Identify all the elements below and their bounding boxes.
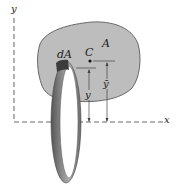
x-axis-label: x (164, 115, 170, 125)
centroid-point (88, 59, 91, 62)
centroid-diagram: y x A C dA y ȳ (0, 0, 176, 194)
y-axis-label: y (11, 4, 17, 14)
y-distance-label: y (85, 90, 91, 100)
ring-element (51, 60, 81, 183)
ybar-distance-label: ȳ (103, 79, 109, 89)
centroid-label: C (85, 47, 93, 58)
element-label: dA (57, 49, 72, 60)
area-label: A (102, 38, 110, 49)
